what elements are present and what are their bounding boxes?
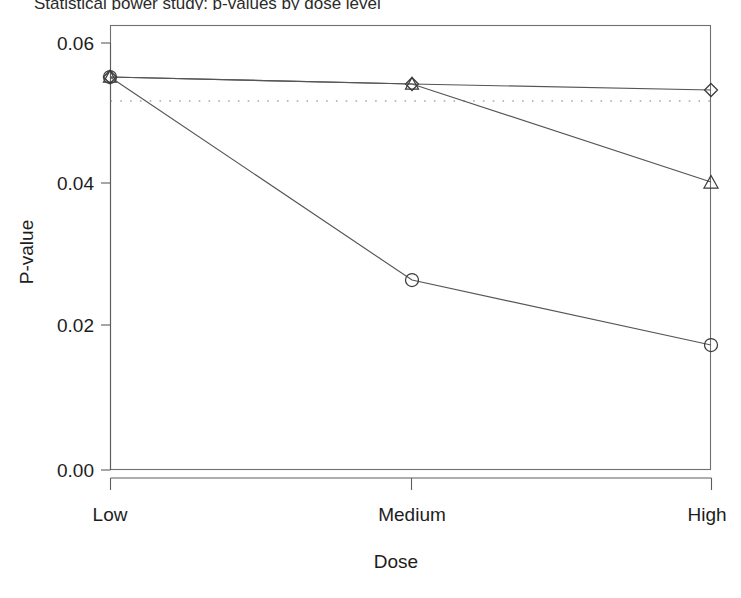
y-tick-label-2: 0.04 <box>57 173 94 194</box>
triangle-series-line <box>110 77 711 182</box>
line-chart: 0.06 0.04 0.02 0.00 P-value Low Medium H… <box>0 0 741 598</box>
triangle-marker-medium <box>406 78 419 90</box>
x-tick-label-medium: Medium <box>378 504 446 525</box>
y-tick-label-0: 0.00 <box>57 460 94 481</box>
x-axis-title: Dose <box>374 551 418 572</box>
x-tick-label-high: High <box>687 504 726 525</box>
y-tick-label-3: 0.06 <box>57 33 94 54</box>
circle-series-line <box>110 77 711 345</box>
circle-series-group <box>104 71 718 352</box>
y-tick-label-1: 0.02 <box>57 315 94 336</box>
chart-figure: Statistical power study: p-values by dos… <box>0 0 741 598</box>
y-axis-title: P-value <box>16 220 37 284</box>
plot-frame <box>111 26 711 470</box>
x-tick-label-low: Low <box>93 504 128 525</box>
series-group <box>104 71 719 352</box>
